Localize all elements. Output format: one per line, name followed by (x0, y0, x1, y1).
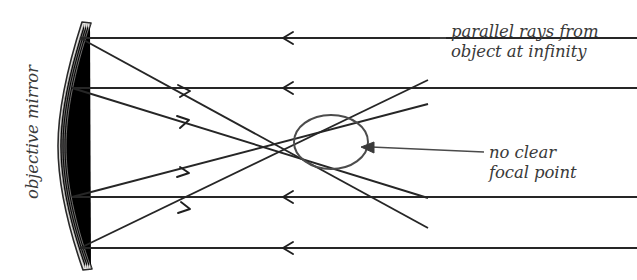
caustic-blur-circle (294, 115, 368, 169)
mirror-hatch-texture (60, 24, 91, 268)
no-clear-focal-point-label: no clearfocal point (489, 143, 577, 183)
parallel-rays-label-line1: parallel rays from (451, 22, 599, 41)
leader-line-focal (371, 147, 484, 152)
no-clear-focal-label-line2: focal point (489, 163, 577, 182)
objective-mirror (58, 22, 92, 270)
objective-mirror-label: objective mirror (23, 52, 43, 212)
reflected-rays (72, 38, 428, 248)
no-clear-focal-label-line1: no clear (489, 143, 556, 162)
reflected-ray-1 (80, 38, 428, 228)
reflected-ray-1-arrowhead (178, 85, 190, 97)
reflected-ray-3 (72, 104, 428, 197)
optics-diagram: objective mirror parallel rays fromobjec… (0, 0, 637, 280)
no-clear-focal-leader (361, 142, 484, 153)
reflected-ray-4-arrowhead (178, 202, 190, 213)
reflected-ray-2 (72, 88, 428, 198)
objective-mirror-label-text: objective mirror (23, 65, 42, 199)
parallel-rays-label-line2: object at infinity (451, 42, 587, 61)
parallel-rays-label: parallel rays fromobject at infinity (451, 22, 599, 62)
reflected-ray-4 (80, 80, 428, 248)
